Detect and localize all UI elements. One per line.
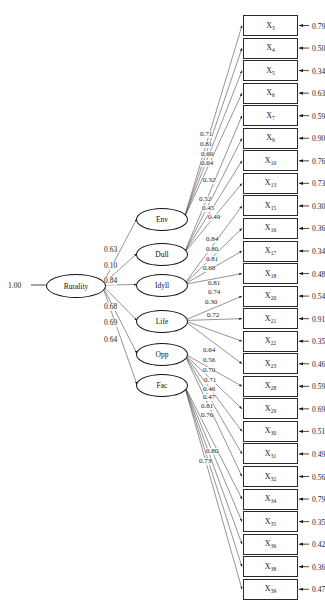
loading-value: 0.81	[200, 141, 212, 148]
indicator-box: X7	[243, 105, 298, 126]
indicator-label: X15	[265, 202, 276, 210]
latent-factor-life: Life	[136, 310, 188, 333]
loading-edge	[184, 385, 242, 500]
structural-path-value: 0.10	[104, 262, 117, 270]
loading-value: 0.73	[199, 458, 211, 465]
loading-value: 0.71	[204, 377, 216, 384]
loading-value: 0.81	[201, 403, 213, 410]
indicator-label: X34	[265, 495, 276, 503]
indicator-box: X3	[243, 15, 298, 36]
residual-value: 0.59	[312, 382, 325, 391]
indicator-box: X6	[243, 83, 298, 104]
residual-value: 0.35	[312, 518, 325, 527]
indicator-label: X28	[265, 382, 276, 390]
indicator-label: X38	[265, 563, 276, 571]
loading-edge	[184, 321, 242, 342]
indicator-label: X39	[265, 585, 276, 593]
indicator-label: X3	[266, 22, 275, 30]
residual-value: 0.91	[312, 315, 325, 324]
loading-value: 0.46	[203, 386, 215, 393]
loading-value: 0.60	[201, 151, 213, 158]
indicator-label: X9	[266, 134, 275, 142]
latent-factor-fac: Fac	[136, 374, 188, 397]
indicator-box: X21	[243, 308, 298, 329]
loading-value: 0.81	[206, 256, 218, 263]
residual-value: 0.34	[312, 247, 325, 256]
indicator-box: X20	[243, 286, 298, 307]
indicator-box: X31	[243, 443, 298, 464]
loading-value: 0.76	[201, 412, 213, 419]
indicator-box: X23	[243, 353, 298, 374]
loading-value: 0.52	[199, 196, 211, 203]
residual-value: 0.51	[312, 427, 325, 436]
indicator-box: X17	[243, 241, 298, 262]
loading-value: 0.49	[208, 214, 220, 221]
latent-factor-label: Idyll	[155, 281, 169, 290]
indicator-label: X18	[265, 270, 276, 278]
loading-value: 0.74	[208, 289, 220, 296]
residual-value: 0.90	[312, 134, 325, 143]
latent-factor-label: Env	[156, 215, 168, 224]
indicator-label: X5	[266, 67, 275, 75]
latent-factor-idyll: Idyll	[136, 274, 188, 297]
indicator-box: X10	[243, 150, 298, 171]
indicator-label: X29	[265, 405, 276, 413]
residual-value: 0.36	[312, 224, 325, 233]
indicator-label: X17	[265, 247, 276, 255]
indicator-label: X4	[266, 44, 275, 52]
residual-value: 0.59	[312, 112, 325, 121]
loading-value: 0.70	[203, 367, 215, 374]
loading-edge	[184, 116, 242, 254]
residual-value: 0.69	[312, 405, 325, 414]
indicator-label: X36	[265, 540, 276, 548]
latent-factor-opp: Opp	[136, 343, 188, 366]
structural-path-value: 0.68	[104, 303, 117, 311]
loading-value: 0.64	[201, 160, 213, 167]
loading-value: 0.64	[203, 347, 215, 354]
loading-value: 0.84	[206, 236, 218, 243]
residual-value: 0.76	[312, 157, 325, 166]
indicator-box: X5	[243, 60, 298, 81]
indicator-label: X30	[265, 427, 276, 435]
indicator-box: X34	[243, 489, 298, 510]
structural-path-value: 0.84	[104, 277, 117, 285]
indicator-box: X4	[243, 38, 298, 59]
residual-value: 0.47	[312, 585, 325, 594]
indicator-label: X7	[266, 112, 275, 120]
indicator-box: X13	[243, 173, 298, 194]
indicator-box: X18	[243, 263, 298, 284]
residual-value: 0.79	[312, 22, 325, 31]
loading-value: 0.71	[200, 131, 212, 138]
indicator-box: X9	[243, 128, 298, 149]
indicator-label: X31	[265, 450, 276, 458]
indicator-label: X16	[265, 224, 276, 232]
indicator-label: X32	[265, 473, 276, 481]
indicator-label: X35	[265, 518, 276, 526]
residual-value: 0.49	[312, 450, 325, 459]
structural-path-value: 0.69	[104, 319, 117, 327]
residual-value: 0.50	[312, 44, 325, 53]
indicator-box: X36	[243, 534, 298, 555]
residual-value: 0.42	[312, 540, 325, 549]
indicator-box: X28	[243, 376, 298, 397]
latent-node-rurality-label: Rurality	[64, 282, 89, 291]
loading-edge	[184, 48, 242, 218]
latent-factor-label: Fac	[157, 381, 168, 390]
latent-factor-dull: Dull	[136, 243, 188, 266]
indicator-label: X20	[265, 292, 276, 300]
indicator-box: X29	[243, 398, 298, 419]
loading-value: 0.81	[208, 280, 220, 287]
indicator-label: X21	[265, 315, 276, 323]
indicator-box: X32	[243, 466, 298, 487]
loading-value: 0.80	[206, 246, 218, 253]
residual-value: 0.30	[312, 202, 325, 211]
indicator-box: X15	[243, 195, 298, 216]
loading-value: 0.68	[203, 265, 215, 272]
loading-value: 0.72	[207, 312, 219, 319]
loading-value: 0.30	[205, 299, 217, 306]
indicator-box: X16	[243, 218, 298, 239]
residual-value: 0.46	[312, 360, 325, 369]
residual-value: 0.36	[312, 563, 325, 572]
residual-value: 0.48	[312, 270, 325, 279]
